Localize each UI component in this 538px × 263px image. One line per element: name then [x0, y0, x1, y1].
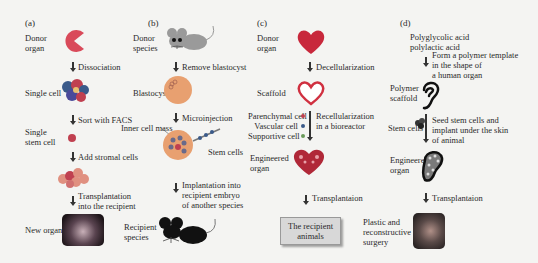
- arrow-down-icon: [72, 62, 74, 69]
- arrow-down-icon: [425, 57, 427, 64]
- arrow-down-icon: [309, 111, 311, 138]
- step-implantation: Implantation into recipient embryo of an…: [182, 180, 243, 210]
- cell-type-list: Parenchymal cell Vascular cell Supportiv…: [248, 111, 298, 141]
- blastocyst-icon: [163, 75, 193, 105]
- step-decellularization: Decellularization: [316, 62, 375, 72]
- donor-mouse-icon: [160, 24, 222, 54]
- step-transplantation: Transplantaion: [312, 193, 363, 203]
- single-stem-cell-label: Single stem cell: [25, 127, 55, 147]
- human-ear-image: [413, 213, 445, 249]
- new-organ-label: New organ: [25, 225, 62, 235]
- arrow-down-icon: [175, 113, 177, 120]
- arrow-down-icon: [309, 62, 311, 69]
- stromal-cells-icon: [56, 168, 92, 190]
- panel-d-label: (d): [400, 18, 411, 28]
- recipient-species-label: Recipient species: [124, 222, 157, 242]
- donor-species-label: Donor species: [133, 33, 158, 53]
- cell-type-dots-icon: [300, 111, 306, 141]
- arrow-down-icon: [305, 195, 307, 202]
- ear-scaffold-icon: [418, 78, 442, 112]
- arrow-down-icon: [425, 193, 427, 200]
- recipient-mouse-icon: [155, 213, 225, 249]
- panel-a-label: (a): [25, 18, 35, 28]
- panel-b-label: (b): [148, 18, 159, 28]
- engineered-ear-icon: [420, 148, 446, 184]
- donor-organ-label: Donor organ: [257, 33, 279, 53]
- scaffold-heart-icon: [296, 80, 326, 106]
- step-transplantation: Transplantaion: [432, 193, 483, 203]
- step-microinjection: Microinjection: [182, 113, 233, 123]
- step-dissociation: Dissociation: [78, 62, 121, 72]
- recipient-animals-box: The recipient animals: [280, 217, 341, 245]
- polymer-scaffold-label: Polymer scaffold: [390, 83, 419, 103]
- new-organ-image: [62, 214, 104, 246]
- single-cell-label: Single cell: [25, 88, 61, 98]
- donor-organ-label: Donor organ: [25, 33, 47, 53]
- step-remove-blastocyst: Remove blastocyst: [182, 62, 246, 72]
- donor-organ-icon: [62, 29, 86, 53]
- arrow-down-icon: [175, 62, 177, 69]
- arrow-down-icon: [72, 196, 74, 203]
- step-seed-implant: Seed stem cells and implant under the sk…: [432, 115, 508, 145]
- engineered-organ-label: Engineered organ: [250, 153, 289, 173]
- step-transplantation: Transplantation into the recipient: [78, 191, 136, 211]
- arrow-down-icon: [175, 183, 177, 190]
- cell-cluster-icon: [60, 78, 90, 104]
- plastic-surgery-label: Plastic and reconstructive surgery: [363, 217, 411, 247]
- scaffold-label: Scaffold: [257, 88, 286, 98]
- stem-cell-icon: [67, 133, 77, 143]
- arrow-down-icon: [72, 115, 74, 122]
- engineered-heart-icon: [292, 148, 326, 176]
- step-recellularization: Recellularization in a bioreactor: [316, 111, 374, 131]
- donor-heart-icon: [296, 29, 326, 55]
- step-add-stromal: Add stromal cells: [78, 152, 138, 162]
- step-form-template: Form a polymer template in the shape of …: [432, 50, 518, 80]
- stem-cells-label: Stem cells: [208, 147, 243, 157]
- arrow-down-icon: [72, 152, 74, 159]
- arrow-down-icon: [425, 114, 427, 140]
- panel-c-label: (c): [257, 18, 267, 28]
- material-label: Polyglycolic acid polylactic acid: [410, 32, 469, 52]
